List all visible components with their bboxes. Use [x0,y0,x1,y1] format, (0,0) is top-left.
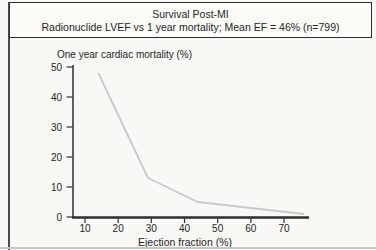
chart-svg: One year cardiac mortality (%) Ejection … [0,40,376,250]
mortality-curve [98,73,304,214]
x-tick-label: 60 [245,223,257,234]
x-tick-label: 70 [278,223,290,234]
chart-title: Survival Post-MI [152,8,228,20]
bottom-border-line [0,247,376,249]
x-tick-label: 40 [179,223,191,234]
y-axis-title: One year cardiac mortality (%) [57,49,192,60]
plot-area: One year cardiac mortality (%) Ejection … [0,40,376,250]
x-tick-label: 50 [212,223,224,234]
y-tick-label: 20 [51,152,63,163]
y-tick-label: 30 [51,122,63,133]
y-tick-label: 50 [51,62,63,73]
x-tick-label: 10 [79,223,91,234]
y-tick-label: 0 [56,212,62,223]
x-tick-label: 20 [113,223,125,234]
chart-title-box: Survival Post-MI Radionuclide LVEF vs 1 … [9,2,372,38]
chart-subtitle: Radionuclide LVEF vs 1 year mortality; M… [41,21,339,33]
y-tick-label: 40 [51,92,63,103]
y-tick-label: 10 [51,182,63,193]
x-tick-label: 30 [146,223,158,234]
